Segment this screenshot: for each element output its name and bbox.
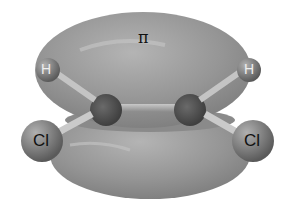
hydrogen-right-label: H [244,61,254,77]
chlorine-left-label: Cl [33,131,49,151]
hydrogen-left-label: H [41,61,51,77]
chlorine-right-label: Cl [244,131,260,151]
pi-label: π [138,28,149,47]
